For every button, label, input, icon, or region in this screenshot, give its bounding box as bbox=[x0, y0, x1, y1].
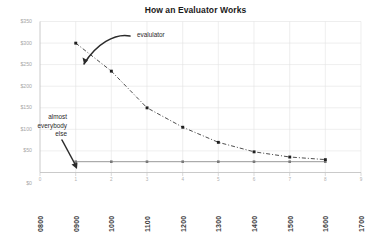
x-axis-label: 1000 bbox=[108, 216, 115, 232]
x-tick-index: 9 bbox=[354, 177, 368, 182]
x-tick-index: 8 bbox=[318, 177, 332, 182]
baseline-annotation-arrow bbox=[62, 140, 78, 169]
x-axis-label: 0900 bbox=[73, 216, 80, 232]
x-axis-label: 0800 bbox=[37, 216, 44, 232]
chart-container: How an Evaluator Works $350 $300 $250 $2… bbox=[0, 0, 391, 238]
x-tick-index: 2 bbox=[104, 177, 118, 182]
x-tick-index: 6 bbox=[247, 177, 261, 182]
series-baseline bbox=[74, 160, 326, 163]
x-axis-label: 1500 bbox=[287, 216, 294, 232]
x-tick-index: 0 bbox=[33, 177, 47, 182]
x-axis-label: 1200 bbox=[180, 216, 187, 232]
x-axis-label: 1300 bbox=[215, 216, 222, 232]
x-axis-label: 1400 bbox=[251, 216, 258, 232]
series-evaluator bbox=[74, 42, 326, 161]
x-tick-index: 5 bbox=[211, 177, 225, 182]
evaluator-annotation-arrow bbox=[83, 36, 131, 64]
x-tick-index: 7 bbox=[283, 177, 297, 182]
x-tick-index: 3 bbox=[140, 177, 154, 182]
x-axis-label: 1700 bbox=[358, 216, 365, 232]
evaluator-annotation-label: evalulator bbox=[137, 31, 165, 40]
x-axis-label: 1600 bbox=[322, 216, 329, 232]
x-axis-label: 1100 bbox=[144, 216, 151, 232]
baseline-annotation-label: almost everybody else bbox=[15, 113, 67, 139]
x-tick-index: 1 bbox=[69, 177, 83, 182]
x-tick-index: 4 bbox=[176, 177, 190, 182]
